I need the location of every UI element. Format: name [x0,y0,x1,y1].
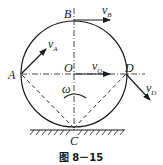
label-a: A [7,68,16,82]
label-d: D [124,61,134,75]
label-omega: ω [62,82,70,96]
label-o: O [64,61,73,75]
label-vb: vB [102,3,112,19]
velocity-arrow-a [21,49,46,74]
rolling-wheel-diagram: B A O D C vB vA vO vD ω 图 8－15 [0,0,163,165]
label-vo: vO [92,59,102,75]
figure-caption: 图 8－15 [59,152,103,163]
label-c: C [70,134,79,148]
label-b: B [64,7,72,21]
label-va: vA [48,37,58,53]
label-vd: vD [146,81,156,97]
